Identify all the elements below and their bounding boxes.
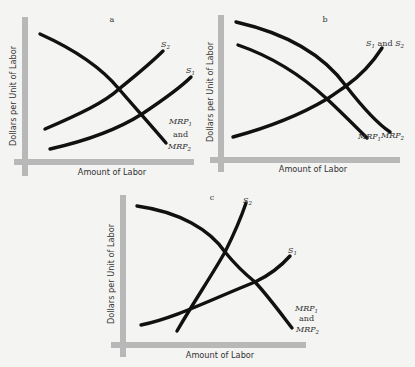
panel-label-b: b bbox=[322, 15, 327, 24]
mrp-curve-a bbox=[40, 34, 166, 143]
figure-canvas: a Dollars per Unit of Labor Amount of La… bbox=[0, 0, 415, 367]
y-axis-label-a: Dollars per Unit of Labor bbox=[8, 45, 18, 146]
mrp1-curve-b bbox=[238, 45, 367, 138]
s1-label-c: S1 bbox=[288, 246, 297, 256]
mrp1-label-b: MRP1 bbox=[357, 132, 381, 142]
mrp2-label-a: MRP2 bbox=[167, 142, 192, 152]
mrp2-label-c: MRP2 bbox=[295, 325, 320, 335]
mrp2-label-b: MRP2 bbox=[380, 131, 405, 141]
s-curve-b bbox=[233, 48, 382, 137]
s2-label-c: S2 bbox=[243, 196, 252, 206]
s2-label-a: S2 bbox=[161, 40, 170, 50]
panel-label-c: c bbox=[210, 193, 215, 202]
y-axis-label-c: Dollars per Unit of Labor bbox=[106, 223, 116, 324]
mrp1-label-a: MRP1 bbox=[168, 117, 192, 127]
x-axis-label-b: Amount of Labor bbox=[279, 164, 348, 174]
panel-label-a: a bbox=[110, 15, 115, 24]
panel-b: b Dollars per Unit of Labor Amount of La… bbox=[205, 15, 405, 174]
and-label-a: and bbox=[173, 130, 188, 139]
and-label-c: and bbox=[299, 314, 314, 323]
x-axis-label-a: Amount of Labor bbox=[78, 167, 147, 177]
y-axis-label-b: Dollars per Unit of Labor bbox=[205, 41, 215, 142]
mrp1-label-c: MRP1 bbox=[294, 304, 318, 314]
s1-label-a: S1 bbox=[186, 66, 195, 76]
panel-c: c Dollars per Unit of Labor Amount of La… bbox=[106, 193, 320, 360]
chart-svg: a Dollars per Unit of Labor Amount of La… bbox=[0, 0, 415, 367]
panel-a: a Dollars per Unit of Labor Amount of La… bbox=[8, 15, 195, 177]
x-axis-label-c: Amount of Labor bbox=[186, 350, 255, 360]
s1-and-s2-label-b: S1 and S2 bbox=[366, 39, 405, 49]
